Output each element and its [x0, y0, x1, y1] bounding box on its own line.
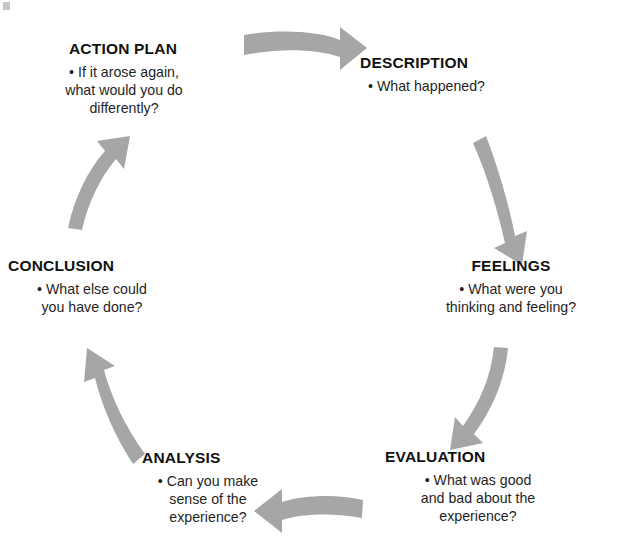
- stage-action-plan-line-3: differently?: [24, 99, 224, 117]
- stage-evaluation-body: • What was good and bad about the experi…: [372, 471, 584, 526]
- stage-feelings-line-2: thinking and feeling?: [400, 298, 622, 316]
- stage-action-plan-body: • If it arose again, what would you do d…: [24, 63, 224, 118]
- stage-feelings[interactable]: FEELINGS • What were you thinking and fe…: [400, 257, 622, 316]
- stage-feelings-line-1: • What were you: [400, 280, 622, 298]
- stage-conclusion-line-2: you have done?: [2, 298, 182, 316]
- stage-evaluation-line-3: experience?: [372, 507, 584, 525]
- stage-conclusion-body: • What else could you have done?: [2, 280, 182, 316]
- stage-analysis[interactable]: ANALYSIS • Can you make sense of the exp…: [118, 449, 298, 526]
- arrow-conclusion-to-action-plan: [68, 136, 130, 230]
- stage-feelings-body: • What were you thinking and feeling?: [400, 280, 622, 316]
- stage-analysis-line-1: • Can you make: [118, 472, 298, 490]
- stage-feelings-title: FEELINGS: [400, 257, 622, 275]
- stage-conclusion-title: CONCLUSION: [2, 257, 182, 275]
- stage-conclusion[interactable]: CONCLUSION • What else could you have do…: [2, 257, 182, 316]
- reflective-cycle-diagram: ACTION PLAN • If it arose again, what wo…: [0, 0, 631, 558]
- arrow-analysis-to-conclusion: [84, 348, 145, 464]
- stage-action-plan-line-2: what would you do: [24, 81, 224, 99]
- stage-analysis-title: ANALYSIS: [118, 449, 298, 467]
- stage-analysis-line-2: sense of the: [118, 490, 298, 508]
- stage-evaluation-line-1: • What was good: [372, 471, 584, 489]
- stage-description-title: DESCRIPTION: [360, 54, 590, 72]
- arrow-action-plan-to-description: [244, 27, 367, 70]
- stage-action-plan[interactable]: ACTION PLAN • If it arose again, what wo…: [24, 40, 224, 117]
- stage-action-plan-line-1: • If it arose again,: [24, 63, 224, 81]
- stage-analysis-line-3: experience?: [118, 508, 298, 526]
- stage-action-plan-title: ACTION PLAN: [24, 40, 224, 58]
- stage-description[interactable]: DESCRIPTION • What happened?: [360, 54, 590, 95]
- arrow-feelings-to-evaluation: [450, 347, 508, 450]
- stage-description-body: • What happened?: [360, 77, 590, 95]
- stage-evaluation[interactable]: EVALUATION • What was good and bad about…: [372, 448, 584, 525]
- arrow-description-to-feelings: [473, 136, 527, 265]
- stage-evaluation-title: EVALUATION: [372, 448, 584, 466]
- stage-analysis-body: • Can you make sense of the experience?: [118, 472, 298, 527]
- stage-conclusion-line-1: • What else could: [2, 280, 182, 298]
- stage-evaluation-line-2: and bad about the: [372, 489, 584, 507]
- stage-description-line-1: • What happened?: [368, 77, 590, 95]
